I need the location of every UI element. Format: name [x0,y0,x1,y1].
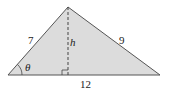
height-label: h [70,36,76,48]
left-side-label: 7 [28,34,34,46]
base-label: 12 [80,78,91,90]
angle-label: θ [25,61,31,73]
right-side-label: 9 [119,34,125,46]
triangle-diagram: 7 h 9 12 θ [0,0,172,93]
